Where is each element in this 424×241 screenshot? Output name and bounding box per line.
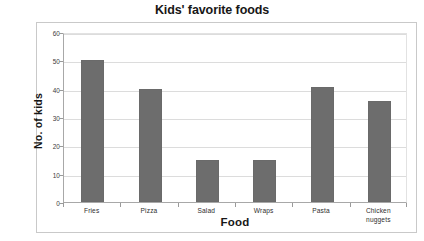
x-axis-title: Food [63, 216, 407, 228]
y-axis-tick-label: 50 [38, 58, 60, 65]
gridline [64, 147, 406, 148]
chart-title: Kids' favorite foods [0, 3, 424, 17]
y-axis-tick-label: 20 [38, 143, 60, 150]
y-axis-tick-label: 60 [38, 30, 60, 37]
y-axis-tick-label: 30 [38, 115, 60, 122]
y-axis-tick-label: 10 [38, 171, 60, 178]
y-axis-tick-mark [59, 175, 63, 176]
x-axis-tick-label: Pizza [120, 207, 177, 216]
gridline [64, 119, 406, 120]
x-axis-tick-label: Salad [178, 207, 235, 216]
y-axis-tick-mark [59, 61, 63, 62]
y-axis-tick-labels: 0102030405060 [36, 33, 60, 203]
bar [196, 160, 219, 203]
y-axis-tick-label: 40 [38, 86, 60, 93]
x-axis-tick-label: Wraps [235, 207, 292, 216]
gridline [64, 34, 406, 35]
gridline [64, 91, 406, 92]
bar [368, 101, 391, 202]
bar-chart: Kids' favorite foods No. of kids 0102030… [0, 0, 424, 241]
plot-area [63, 33, 407, 203]
bar [81, 60, 104, 202]
gridline [64, 62, 406, 63]
y-axis-tick-label: 0 [38, 200, 60, 207]
x-axis-tick-label: Pasta [292, 207, 349, 216]
bar [139, 89, 162, 202]
y-axis-tick-mark [59, 33, 63, 34]
bar [253, 160, 276, 203]
y-axis-tick-mark [59, 90, 63, 91]
bar [311, 87, 334, 202]
x-axis-tick-label: Fries [63, 207, 120, 216]
y-axis-tick-mark [59, 203, 63, 204]
y-axis-tick-mark [59, 118, 63, 119]
y-axis-tick-mark [59, 146, 63, 147]
gridline [64, 176, 406, 177]
